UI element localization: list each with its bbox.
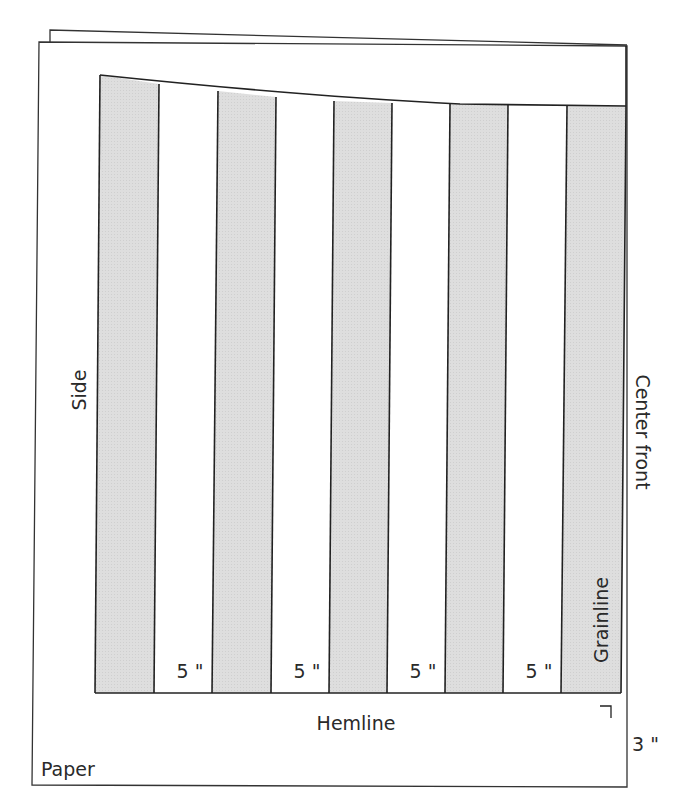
pattern-strip-3 bbox=[329, 101, 392, 693]
pattern-diagram: Side Center front Grainline 5 " 5 " 5 " … bbox=[0, 0, 678, 811]
paper-label: Paper bbox=[41, 758, 95, 780]
pattern-strip-4 bbox=[445, 104, 508, 693]
spread-label-2: 5 " bbox=[294, 660, 321, 682]
spread-label-1: 5 " bbox=[177, 660, 204, 682]
side-label: Side bbox=[68, 369, 90, 410]
pattern-strip-2 bbox=[212, 91, 276, 693]
hem-allowance-label: 3 " bbox=[632, 733, 659, 755]
center-front-label: Center front bbox=[632, 374, 654, 489]
hemline-label: Hemline bbox=[317, 712, 396, 734]
spread-label-3: 5 " bbox=[410, 660, 437, 682]
spread-label-4: 5 " bbox=[526, 660, 553, 682]
pattern-strip-1 bbox=[95, 75, 159, 693]
grainline-label: Grainline bbox=[590, 577, 612, 663]
